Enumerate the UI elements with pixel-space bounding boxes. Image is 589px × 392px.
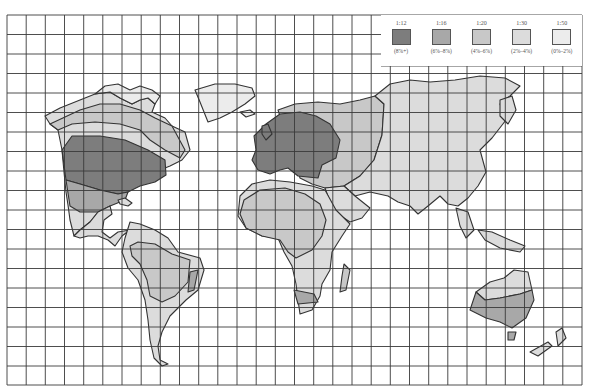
legend-range: (0%–2%)	[551, 48, 572, 55]
legend: 1:12 (8%+) 1:16 (6%–8%) 1:20 (4%–6%) 1:3…	[381, 15, 582, 66]
legend-item: 1:30 (2%–4%)	[502, 19, 542, 55]
north-america	[45, 92, 190, 236]
legend-item: 1:12 (8%+)	[381, 19, 421, 55]
legend-ratio: 1:50	[557, 19, 568, 27]
legend-swatch	[472, 29, 491, 45]
legend-range: (8%+)	[394, 48, 408, 55]
legend-range: (2%–4%)	[511, 48, 532, 55]
continents	[45, 76, 566, 366]
south-america	[122, 222, 204, 366]
legend-ratio: 1:16	[436, 19, 447, 27]
new-zealand	[530, 328, 566, 356]
legend-item: 1:50 (0%–2%)	[542, 19, 582, 55]
legend-ratio: 1:12	[396, 19, 407, 27]
legend-item: 1:20 (4%–6%)	[461, 19, 501, 55]
legend-range: (4%–6%)	[471, 48, 492, 55]
legend-range: (6%–8%)	[431, 48, 452, 55]
legend-swatch	[512, 29, 531, 45]
legend-swatch	[432, 29, 451, 45]
legend-ratio: 1:20	[476, 19, 487, 27]
legend-swatch	[392, 29, 411, 45]
legend-ratio: 1:30	[516, 19, 527, 27]
legend-swatch	[552, 29, 571, 45]
legend-item: 1:16 (6%–8%)	[421, 19, 461, 55]
